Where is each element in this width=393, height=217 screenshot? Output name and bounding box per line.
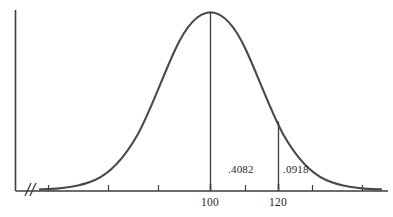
area-label-right: .0918 [283, 164, 309, 175]
x-axis-ticks [49, 184, 363, 191]
distribution-plot-canvas [0, 0, 393, 217]
x-tick-label-120: 120 [269, 197, 287, 209]
normal-distribution-figure: .4082 .0918 100 120 [0, 0, 393, 217]
axis-break-icon [25, 183, 36, 196]
area-label-left: .4082 [228, 164, 254, 175]
x-tick-label-mean: 100 [201, 197, 219, 209]
